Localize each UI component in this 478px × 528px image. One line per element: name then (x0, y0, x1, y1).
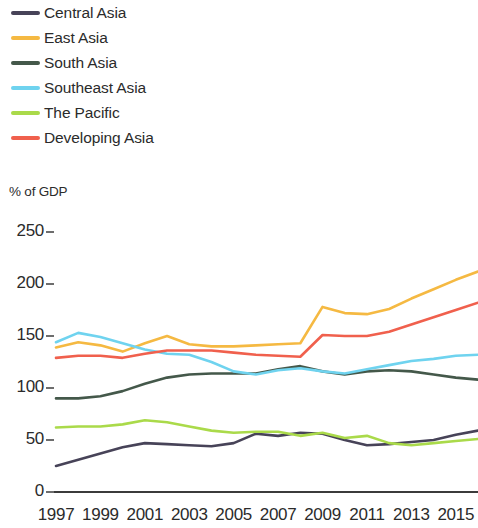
x-axis-line (50, 491, 478, 493)
y-axis-tick-label: 250 (2, 221, 44, 241)
y-axis-tick-mark (46, 439, 54, 441)
x-axis-tick-label: 1999 (78, 505, 122, 525)
x-axis-tick-label: 2003 (167, 505, 211, 525)
chart-plot-svg (0, 0, 478, 528)
x-axis-tick-label: 2009 (301, 505, 345, 525)
y-axis-tick-label: 200 (2, 273, 44, 293)
y-axis-tick-mark (46, 335, 54, 337)
line-chart: 2502001501005001997199920012003200520072… (0, 0, 478, 528)
series-line-south-asia (56, 366, 478, 398)
y-axis-tick-mark (46, 283, 54, 285)
x-axis-tick-label: 2005 (212, 505, 256, 525)
series-line-southeast-asia (56, 333, 478, 375)
y-axis-tick-label: 50 (2, 429, 44, 449)
y-axis-tick-mark (46, 387, 54, 389)
x-axis-tick-label: 1997 (34, 505, 78, 525)
x-axis-tick-label: 2007 (256, 505, 300, 525)
x-axis-tick-label: 2001 (123, 505, 167, 525)
x-axis-tick-label: 2011 (345, 505, 389, 525)
x-axis-tick-label: 2013 (389, 505, 433, 525)
y-axis-tick-mark (46, 231, 54, 233)
y-axis-tick-label: 0 (2, 481, 44, 501)
series-line-central-asia (56, 431, 478, 466)
y-axis-tick-label: 100 (2, 377, 44, 397)
x-axis-tick-label: 2015 (434, 505, 478, 525)
y-axis-tick-label: 150 (2, 325, 44, 345)
series-line-east-asia (56, 272, 478, 352)
y-axis-tick-mark (46, 491, 54, 493)
